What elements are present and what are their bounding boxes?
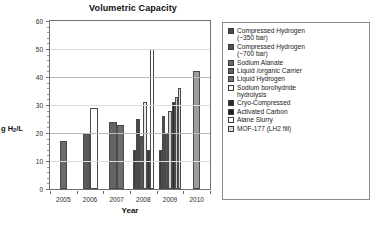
legend-swatch-icon [228, 76, 234, 82]
x-tick-label: 2009 [163, 196, 177, 203]
bar [109, 122, 117, 189]
legend-swatch-icon [228, 109, 234, 115]
x-axis-title: Year [49, 206, 211, 215]
legend-item[interactable]: Activated Carbon [228, 108, 366, 115]
y-tick-label: 40 [36, 74, 43, 81]
legend-label: Cryo-Compressed [237, 99, 291, 106]
legend-item[interactable]: Liquid /organic Carrier [228, 67, 366, 74]
x-tick-mark [103, 191, 104, 194]
x-tick-label: 2005 [56, 196, 70, 203]
legend-label: Activated Carbon [237, 108, 288, 115]
gridline [50, 133, 210, 134]
legend-label: Compressed Hydrogen (~350 bar) [237, 27, 305, 42]
legend-swatch-icon [228, 126, 234, 132]
legend-item[interactable]: Compressed Hydrogen (~700 bar) [228, 43, 366, 58]
legend-swatch-icon [228, 28, 234, 34]
legend-swatch-icon [228, 100, 234, 106]
gridline [50, 161, 210, 162]
bar [178, 88, 181, 189]
legend-label: Compressed Hydrogen (~700 bar) [237, 43, 305, 58]
legend-label: Sodium borohydride hydrolysis [237, 84, 296, 99]
legend-swatch-icon [228, 85, 234, 91]
legend-item[interactable]: Liquid Hydrogen [228, 75, 366, 82]
x-tick-label: 2007 [109, 196, 123, 203]
legend-swatch-icon [228, 117, 234, 123]
legend-item[interactable]: Cryo-Compressed [228, 99, 366, 106]
bar [60, 141, 68, 189]
legend-item[interactable]: Alane Slurry [228, 116, 366, 123]
bar [150, 49, 153, 189]
gridline [50, 77, 210, 78]
x-tick-mark [157, 191, 158, 194]
legend-label: Sodium Alanate [237, 59, 283, 66]
y-tick-label: 10 [36, 158, 43, 165]
y-tick-label: 60 [36, 18, 43, 25]
legend-label: Liquid /organic Carrier [237, 67, 302, 74]
gridline [50, 105, 210, 106]
y-tick-label: 20 [36, 130, 43, 137]
plot-area [49, 20, 211, 190]
legend-label: Alane Slurry [237, 116, 273, 123]
legend-item[interactable]: Compressed Hydrogen (~350 bar) [228, 27, 366, 42]
bar [117, 125, 125, 189]
x-tick-mark [50, 191, 51, 194]
y-axis-title: g H2/L [1, 124, 23, 133]
chart-title: Volumetric Capacity [38, 3, 228, 13]
chart-container: Volumetric Capacity g H2/L 0102030405060… [0, 0, 376, 236]
x-tick-label: 2006 [83, 196, 97, 203]
x-tick-label: 2010 [189, 196, 203, 203]
x-tick-mark [77, 191, 78, 194]
legend-item[interactable]: Sodium borohydride hydrolysis [228, 84, 366, 99]
legend-swatch-icon [228, 60, 234, 66]
legend-swatch-icon [228, 44, 234, 50]
gridline [50, 49, 210, 50]
legend-label: Liquid Hydrogen [237, 75, 285, 82]
x-tick-mark [183, 191, 184, 194]
x-tick-label: 2008 [136, 196, 150, 203]
y-axis: g H2/L 0102030405060 [0, 20, 49, 191]
legend-swatch-icon [228, 68, 234, 74]
legend-item[interactable]: MOF-177 (LH2 fill) [228, 125, 366, 132]
x-tick-mark [130, 191, 131, 194]
legend-label: MOF-177 (LH2 fill) [237, 125, 291, 132]
x-tick-mark [210, 191, 211, 194]
y-tick-label: 30 [36, 102, 43, 109]
legend-item[interactable]: Sodium Alanate [228, 59, 366, 66]
y-tick-label: 50 [36, 46, 43, 53]
chart-legend: Compressed Hydrogen (~350 bar)Compressed… [222, 22, 370, 200]
y-tick-label: 0 [39, 186, 43, 193]
bar [90, 108, 98, 189]
bar [193, 71, 201, 189]
